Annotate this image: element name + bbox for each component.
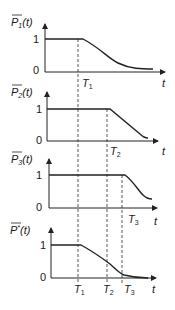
p4-ytick-low: 0 [40,271,46,283]
p2-t2-label: T2 [110,145,121,158]
p1-ylabel: P1(t) [11,16,33,29]
p2-curve [47,109,148,138]
p4-curve [51,245,148,278]
p4-xlabel: t [152,283,156,295]
survival-probability-diagram: P1(t) 1 0 T1 t P2(t) 1 0 T2 t P3(t) 1 0 [0,0,175,310]
p2-ytick-high: 1 [36,103,42,115]
p4-ylabel: P*(t) [10,224,31,236]
p3-ytick-low: 0 [36,201,42,213]
p3-ytick-high: 1 [36,169,42,181]
p1-t1-label: T1 [82,77,93,90]
p3-xlabel: t [154,215,158,227]
p4-t3-label: T3 [124,283,135,296]
panel-p4: P*(t) 1 0 T1 T2 T3 t [10,223,156,296]
p4-t1-label: T1 [74,283,85,296]
p1-curve [45,39,153,69]
p2-xlabel: t [162,145,166,157]
p3-ylabel: P3(t) [11,153,33,166]
p1-xlabel: t [162,77,166,89]
p3-curve [49,175,152,199]
panel-p2: P2(t) 1 0 T2 t [11,85,166,158]
p4-t2-label: T2 [103,283,114,296]
p2-ytick-low: 0 [36,134,42,146]
panel-p3: P3(t) 1 0 T3 t [11,152,158,227]
p1-ytick-low: 0 [33,64,39,76]
p1-ytick-high: 1 [33,33,39,45]
p4-ytick-high: 1 [40,239,46,251]
p2-ylabel: P2(t) [11,86,33,99]
panel-p1: P1(t) 1 0 T1 t [11,15,166,90]
p3-t3-label: T3 [128,213,139,226]
